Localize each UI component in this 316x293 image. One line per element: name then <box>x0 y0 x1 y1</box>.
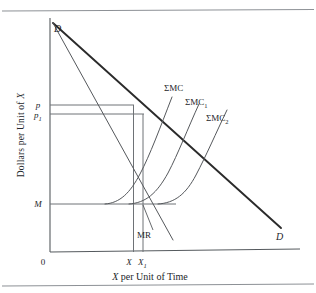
mr-label: MR <box>137 230 151 240</box>
smc-label: ΣMC <box>164 83 183 93</box>
quantity-X-label: X <box>125 257 132 267</box>
y-axis-title: Dollars per Unit of X <box>16 92 26 177</box>
demand-top-label: D <box>53 23 62 34</box>
bottom-rule <box>2 284 314 286</box>
mr-leader-line <box>143 205 153 230</box>
x-axis <box>50 249 300 252</box>
marginal-cost-M-label: M <box>33 199 42 209</box>
demand-bottom-label: D <box>275 231 284 242</box>
price-p1-label: p1 <box>33 110 42 122</box>
x-axis-title: X per Unit of Time <box>111 271 188 282</box>
marginal-revenue-curve <box>53 23 173 240</box>
smc2-label: ΣMC2 <box>206 113 229 125</box>
top-rule <box>2 10 314 12</box>
quantity-X1-label: X1 <box>137 257 147 269</box>
smc1-label: ΣMC1 <box>185 97 208 109</box>
origin-label: 0 <box>41 257 46 267</box>
economics-diagram: D D MR ΣMC ΣMC1 ΣMC2 p p1 M X X1 0 X per… <box>0 0 316 293</box>
sum-marginal-cost-curve <box>105 97 172 204</box>
price-p-label: p <box>35 100 41 110</box>
sum-marginal-cost-curve-2 <box>158 110 227 204</box>
figure-container: D D MR ΣMC ΣMC1 ΣMC2 p p1 M X X1 0 X per… <box>0 0 316 293</box>
demand-curve <box>53 23 281 228</box>
